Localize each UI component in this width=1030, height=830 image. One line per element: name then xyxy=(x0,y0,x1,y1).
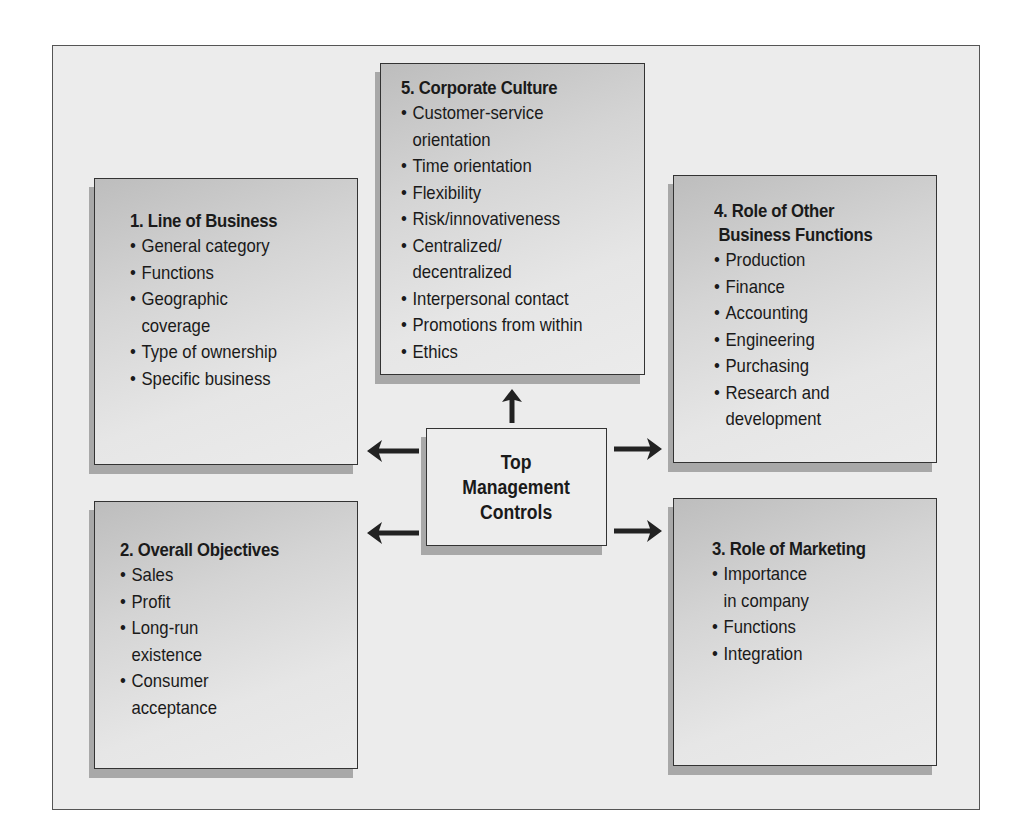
list-item-continuation: existence xyxy=(120,642,329,669)
bullet-icon: • xyxy=(120,589,131,616)
center-title-line-2: Management xyxy=(463,475,571,500)
bullet-icon: • xyxy=(401,286,412,313)
list-item-text: Functions xyxy=(723,616,795,637)
list-item-continuation: development xyxy=(714,406,909,433)
bullet-icon: • xyxy=(401,233,412,260)
list-item-text: Importance xyxy=(723,563,807,584)
bullet-icon: • xyxy=(401,100,412,127)
bullet-icon: • xyxy=(712,561,723,588)
list-item: •Accounting xyxy=(714,300,909,327)
arrow-left-icon xyxy=(366,438,420,464)
list-item-text: decentralized xyxy=(401,259,615,286)
list-item-text: Functions xyxy=(141,262,213,283)
list-item: •Sales xyxy=(120,562,329,589)
list-item-text: Long-run xyxy=(131,617,198,638)
list-item-text: in company xyxy=(712,588,909,615)
list-item: •Functions xyxy=(712,614,909,641)
list-item-text: Integration xyxy=(723,643,802,664)
bullet-list: •Sales•Profit•Long-runexistence•Consumer… xyxy=(120,562,357,721)
list-item-text: Consumer xyxy=(131,670,208,691)
bullet-icon: • xyxy=(401,312,412,339)
bullet-icon: • xyxy=(714,380,725,407)
bullet-icon: • xyxy=(401,180,412,207)
list-item-text: Interpersonal contact xyxy=(412,288,568,309)
bullet-icon: • xyxy=(130,366,141,393)
arrow-left-icon xyxy=(366,520,420,546)
box-title-line-1: 4. Role of Other xyxy=(714,199,909,223)
list-item: •Long-run xyxy=(120,615,329,642)
box-title: 2. Overall Objectives xyxy=(120,538,329,562)
list-item-text: Geographic xyxy=(141,288,227,309)
list-item: •Functions xyxy=(130,260,330,287)
box-title-line-2: Business Functions xyxy=(714,223,909,247)
center-title-line-3: Controls xyxy=(463,500,571,525)
list-item-continuation: orientation xyxy=(401,127,615,154)
list-item: •Engineering xyxy=(714,327,909,354)
list-item: •Integration xyxy=(712,641,909,668)
box-role-of-other-functions: 4. Role of Other Business Functions •Pro… xyxy=(673,175,937,463)
list-item-continuation: decentralized xyxy=(401,259,615,286)
list-item: •General category xyxy=(130,233,330,260)
list-item-continuation: in company xyxy=(712,588,909,615)
list-item-text: Finance xyxy=(725,276,784,297)
bullet-icon: • xyxy=(130,260,141,287)
bullet-icon: • xyxy=(130,339,141,366)
bullet-icon: • xyxy=(714,300,725,327)
arrow-right-icon xyxy=(613,518,663,544)
list-item-text: Profit xyxy=(131,591,170,612)
box-title: 5. Corporate Culture xyxy=(401,76,615,100)
center-title-line-1: Top xyxy=(463,450,571,475)
list-item-text: Customer-service xyxy=(412,102,543,123)
list-item-text: Specific business xyxy=(141,368,270,389)
bullet-icon: • xyxy=(714,353,725,380)
list-item: •Interpersonal contact xyxy=(401,286,615,313)
list-item: •Centralized/ xyxy=(401,233,615,260)
list-item: •Customer-service xyxy=(401,100,615,127)
list-item-text: existence xyxy=(120,642,329,669)
list-item-text: coverage xyxy=(130,313,330,340)
bullet-icon: • xyxy=(714,247,725,274)
bullet-icon: • xyxy=(120,615,131,642)
list-item: •Consumer xyxy=(120,668,329,695)
list-item: •Risk/innovativeness xyxy=(401,206,615,233)
list-item-text: Centralized/ xyxy=(412,235,501,256)
list-item-text: Purchasing xyxy=(725,355,809,376)
list-item-continuation: acceptance xyxy=(120,695,329,722)
bullet-icon: • xyxy=(130,286,141,313)
list-item-text: Promotions from within xyxy=(412,314,582,335)
list-item-text: Engineering xyxy=(725,329,814,350)
bullet-icon: • xyxy=(712,614,723,641)
list-item: •Ethics xyxy=(401,339,615,366)
bullet-icon: • xyxy=(401,153,412,180)
list-item: •Importance xyxy=(712,561,909,588)
bullet-icon: • xyxy=(712,641,723,668)
list-item: •Promotions from within xyxy=(401,312,615,339)
bullet-list: •Importancein company•Functions•Integrat… xyxy=(712,561,936,667)
list-item: •Specific business xyxy=(130,366,330,393)
list-item: •Geographic xyxy=(130,286,330,313)
arrow-right-icon xyxy=(613,436,663,462)
bullet-icon: • xyxy=(401,339,412,366)
list-item-text: Ethics xyxy=(412,341,458,362)
bullet-icon: • xyxy=(130,233,141,260)
bullet-list: •Customer-serviceorientation•Time orient… xyxy=(401,100,644,365)
list-item-text: orientation xyxy=(401,127,615,154)
bullet-icon: • xyxy=(714,327,725,354)
list-item: •Production xyxy=(714,247,909,274)
box-role-of-marketing: 3. Role of Marketing •Importancein compa… xyxy=(673,498,937,766)
arrow-up-icon xyxy=(500,388,524,424)
list-item-text: development xyxy=(714,406,909,433)
bullet-icon: • xyxy=(120,562,131,589)
list-item: •Finance xyxy=(714,274,909,301)
box-corporate-culture: 5. Corporate Culture •Customer-serviceor… xyxy=(380,63,645,375)
list-item: •Research and xyxy=(714,380,909,407)
list-item-text: Type of ownership xyxy=(141,341,277,362)
box-line-of-business: 1. Line of Business •General category•Fu… xyxy=(94,178,358,465)
bullet-list: •Production•Finance•Accounting•Engineeri… xyxy=(714,247,936,433)
list-item: •Purchasing xyxy=(714,353,909,380)
box-title: 3. Role of Marketing xyxy=(712,537,909,561)
list-item: •Time orientation xyxy=(401,153,615,180)
list-item-text: Flexibility xyxy=(412,182,481,203)
center-title: Top Management Controls xyxy=(463,450,571,525)
list-item-text: Research and xyxy=(725,382,829,403)
